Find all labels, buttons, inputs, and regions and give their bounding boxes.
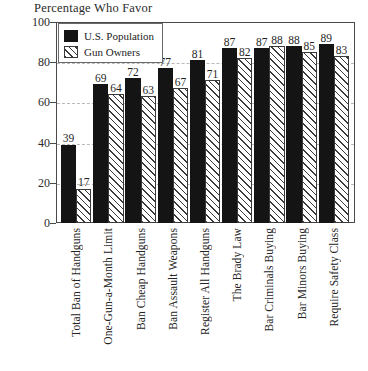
bar-value-label: 83	[336, 45, 348, 57]
bar: 89	[319, 44, 334, 223]
bar: 71	[205, 80, 220, 223]
y-tick-label-80: 80	[10, 55, 50, 70]
bar-value-label: 67	[175, 77, 187, 89]
bar: 87	[254, 48, 269, 223]
legend-label-gun-owners: Gun Owners	[84, 46, 140, 58]
bar: 67	[173, 88, 188, 223]
bar: 81	[190, 60, 205, 223]
bar-value-label: 69	[95, 73, 107, 85]
bar-value-label: 87	[224, 37, 236, 49]
bar-value-label: 72	[127, 67, 139, 79]
bar-group: 8885	[286, 22, 316, 223]
bar-value-label: 85	[303, 41, 315, 53]
bar-group: 8788	[254, 22, 284, 223]
x-axis-label: Bar Minors Buying	[296, 228, 308, 319]
bar: 83	[334, 56, 349, 223]
bar-group: 8171	[190, 22, 220, 223]
bar: 39	[61, 145, 76, 223]
bar-value-label: 63	[142, 85, 154, 97]
bar: 63	[141, 96, 156, 223]
bar: 77	[158, 68, 173, 223]
legend-swatch-solid-icon	[64, 30, 78, 42]
bar-value-label: 17	[78, 177, 90, 189]
chart-legend: U.S. Population Gun Owners	[58, 23, 163, 63]
y-tick-label-100: 100	[10, 15, 50, 30]
x-axis-label: Ban Cheap Handguns	[135, 228, 147, 330]
bar: 17	[76, 189, 91, 223]
x-axis-labels: Total Ban of HandgunsOne-Gun-a-Month Lim…	[56, 224, 355, 370]
x-axis-label: One-Gun-a-Month Limit	[102, 228, 114, 345]
bar-value-label: 81	[192, 49, 204, 61]
bar-group: 8983	[319, 22, 349, 223]
chart-figure: Percentage Who Favor 020406080100 391769…	[0, 0, 368, 371]
bar-value-label: 89	[320, 33, 332, 45]
bar: 82	[237, 58, 252, 223]
x-axis-label: Total Ban of Handguns	[70, 228, 82, 337]
bar-value-label: 87	[256, 37, 268, 49]
x-axis-label: Bar Criminals Buying	[263, 228, 275, 332]
bar: 87	[222, 48, 237, 223]
bar: 88	[286, 46, 301, 223]
bar-value-label: 64	[110, 83, 122, 95]
bar-value-label: 88	[288, 35, 300, 47]
bar-value-label: 88	[271, 35, 283, 47]
y-tick-label-20: 20	[10, 175, 50, 190]
legend-label-us-population: U.S. Population	[84, 30, 154, 42]
x-axis-label: The Brady Law	[231, 228, 243, 301]
y-tick-label-0: 0	[10, 216, 50, 231]
chart-title: Percentage Who Favor	[34, 1, 152, 16]
bar-group: 8782	[222, 22, 252, 223]
bar: 64	[108, 94, 123, 223]
bar: 72	[125, 78, 140, 223]
x-axis-label: Require Safety Class	[328, 228, 340, 326]
legend-entry-us-population: U.S. Population	[64, 28, 157, 43]
x-axis-label: Ban Assault Weapons	[167, 228, 179, 330]
bar-value-label: 39	[63, 133, 75, 145]
y-tick-label-60: 60	[10, 95, 50, 110]
bar-value-label: 82	[239, 47, 251, 59]
bar: 69	[93, 84, 108, 223]
bar: 85	[302, 52, 317, 223]
y-tick-label-40: 40	[10, 135, 50, 150]
legend-entry-gun-owners: Gun Owners	[64, 44, 157, 59]
bar-value-label: 71	[207, 69, 219, 81]
bar: 88	[269, 46, 284, 223]
x-axis-label: Register All Handguns	[199, 228, 211, 335]
legend-swatch-hatch-icon	[64, 46, 78, 58]
